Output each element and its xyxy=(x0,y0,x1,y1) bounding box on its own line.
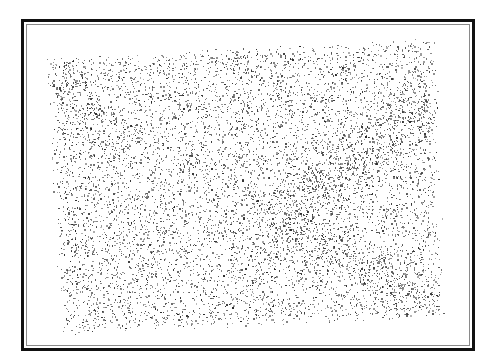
picture-frame-inner-border xyxy=(26,24,470,346)
stippled-texture-image xyxy=(27,25,469,345)
picture-frame-outer-border xyxy=(21,19,475,351)
image-canvas xyxy=(0,0,496,361)
